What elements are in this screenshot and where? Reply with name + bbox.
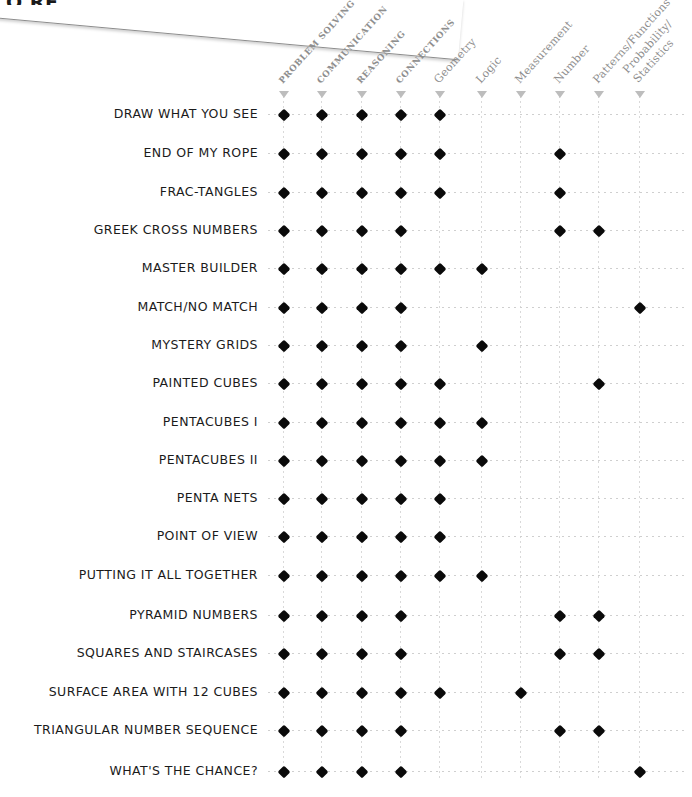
row-label[interactable]: FRAC-TANGLES	[6, 185, 258, 199]
matrix-marker[interactable]	[355, 301, 368, 314]
matrix-marker[interactable]	[277, 609, 290, 622]
matrix-marker[interactable]	[475, 262, 488, 275]
matrix-marker[interactable]	[394, 262, 407, 275]
matrix-marker[interactable]	[277, 454, 290, 467]
matrix-marker[interactable]	[394, 301, 407, 314]
matrix-marker[interactable]	[355, 609, 368, 622]
matrix-marker[interactable]	[394, 492, 407, 505]
matrix-marker[interactable]	[355, 724, 368, 737]
row-label[interactable]: TRIANGULAR NUMBER SEQUENCE	[6, 723, 258, 737]
matrix-marker[interactable]	[277, 147, 290, 160]
matrix-marker[interactable]	[553, 224, 566, 237]
row-label[interactable]: DRAW WHAT YOU SEE	[6, 107, 258, 121]
row-label[interactable]: PYRAMID NUMBERS	[6, 608, 258, 622]
matrix-marker[interactable]	[315, 147, 328, 160]
matrix-marker[interactable]	[433, 569, 446, 582]
matrix-marker[interactable]	[315, 186, 328, 199]
matrix-marker[interactable]	[315, 224, 328, 237]
matrix-marker[interactable]	[592, 224, 605, 237]
matrix-marker[interactable]	[433, 108, 446, 121]
matrix-marker[interactable]	[315, 609, 328, 622]
matrix-marker[interactable]	[475, 339, 488, 352]
matrix-marker[interactable]	[315, 765, 328, 778]
matrix-marker[interactable]	[277, 339, 290, 352]
matrix-marker[interactable]	[355, 569, 368, 582]
row-label[interactable]: PAINTED CUBES	[6, 376, 258, 390]
matrix-marker[interactable]	[394, 765, 407, 778]
row-label[interactable]: WHAT'S THE CHANCE?	[6, 764, 258, 778]
matrix-marker[interactable]	[514, 686, 527, 699]
matrix-marker[interactable]	[315, 108, 328, 121]
matrix-marker[interactable]	[592, 647, 605, 660]
matrix-marker[interactable]	[355, 765, 368, 778]
matrix-marker[interactable]	[355, 262, 368, 275]
matrix-marker[interactable]	[277, 108, 290, 121]
matrix-marker[interactable]	[433, 377, 446, 390]
matrix-marker[interactable]	[355, 647, 368, 660]
matrix-marker[interactable]	[394, 416, 407, 429]
matrix-marker[interactable]	[315, 377, 328, 390]
row-label[interactable]: PUTTING IT ALL TOGETHER	[6, 568, 258, 582]
matrix-marker[interactable]	[394, 224, 407, 237]
matrix-marker[interactable]	[394, 530, 407, 543]
matrix-marker[interactable]	[394, 609, 407, 622]
row-label[interactable]: GREEK CROSS NUMBERS	[6, 223, 258, 237]
matrix-marker[interactable]	[592, 377, 605, 390]
matrix-marker[interactable]	[394, 147, 407, 160]
matrix-marker[interactable]	[315, 454, 328, 467]
matrix-marker[interactable]	[433, 492, 446, 505]
matrix-marker[interactable]	[277, 765, 290, 778]
matrix-marker[interactable]	[277, 647, 290, 660]
matrix-marker[interactable]	[394, 186, 407, 199]
matrix-marker[interactable]	[355, 530, 368, 543]
row-label[interactable]: MASTER BUILDER	[6, 261, 258, 275]
matrix-marker[interactable]	[433, 686, 446, 699]
matrix-marker[interactable]	[433, 147, 446, 160]
matrix-marker[interactable]	[277, 686, 290, 699]
matrix-marker[interactable]	[433, 416, 446, 429]
matrix-marker[interactable]	[355, 147, 368, 160]
matrix-marker[interactable]	[315, 647, 328, 660]
matrix-marker[interactable]	[433, 262, 446, 275]
matrix-marker[interactable]	[277, 569, 290, 582]
matrix-marker[interactable]	[394, 569, 407, 582]
matrix-marker[interactable]	[355, 224, 368, 237]
matrix-marker[interactable]	[355, 686, 368, 699]
matrix-marker[interactable]	[315, 262, 328, 275]
matrix-marker[interactable]	[394, 724, 407, 737]
row-label[interactable]: PENTA NETS	[6, 491, 258, 505]
matrix-marker[interactable]	[355, 454, 368, 467]
matrix-marker[interactable]	[315, 530, 328, 543]
matrix-marker[interactable]	[277, 224, 290, 237]
matrix-marker[interactable]	[433, 186, 446, 199]
matrix-marker[interactable]	[277, 186, 290, 199]
matrix-marker[interactable]	[394, 647, 407, 660]
matrix-marker[interactable]	[633, 765, 646, 778]
matrix-marker[interactable]	[592, 609, 605, 622]
matrix-marker[interactable]	[277, 492, 290, 505]
matrix-marker[interactable]	[394, 339, 407, 352]
row-label[interactable]: PENTACUBES I	[6, 415, 258, 429]
matrix-marker[interactable]	[315, 301, 328, 314]
matrix-marker[interactable]	[315, 339, 328, 352]
matrix-marker[interactable]	[355, 492, 368, 505]
row-label[interactable]: PENTACUBES II	[6, 453, 258, 467]
matrix-marker[interactable]	[315, 492, 328, 505]
matrix-marker[interactable]	[433, 530, 446, 543]
row-label[interactable]: SURFACE AREA WITH 12 CUBES	[6, 685, 258, 699]
matrix-marker[interactable]	[277, 377, 290, 390]
matrix-marker[interactable]	[277, 724, 290, 737]
matrix-marker[interactable]	[315, 686, 328, 699]
matrix-marker[interactable]	[315, 569, 328, 582]
row-label[interactable]: SQUARES AND STAIRCASES	[6, 646, 258, 660]
matrix-marker[interactable]	[553, 186, 566, 199]
matrix-marker[interactable]	[553, 147, 566, 160]
row-label[interactable]: MATCH/NO MATCH	[6, 300, 258, 314]
matrix-marker[interactable]	[277, 301, 290, 314]
matrix-marker[interactable]	[355, 108, 368, 121]
matrix-marker[interactable]	[553, 609, 566, 622]
row-label[interactable]: END OF MY ROPE	[6, 146, 258, 160]
matrix-marker[interactable]	[355, 339, 368, 352]
matrix-marker[interactable]	[433, 454, 446, 467]
matrix-marker[interactable]	[633, 301, 646, 314]
